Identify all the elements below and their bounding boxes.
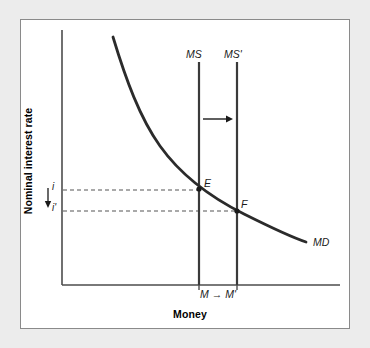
y-tick-label-i: i — [52, 181, 54, 192]
y-tick-label-i-prime: i' — [52, 202, 56, 213]
md-curve-label: MD — [313, 236, 329, 248]
figure-root: Nominal interest rate Money MS MS' MD E … — [0, 0, 370, 348]
point-f-label: F — [241, 198, 247, 210]
x-axis-title: Money — [150, 308, 230, 320]
ms-curve-label: MS — [186, 48, 202, 60]
ms-prime-curve-label: MS' — [224, 48, 242, 60]
point-e-label: E — [204, 177, 211, 189]
x-tick-labels-m-to-m-prime: M → M' — [180, 288, 256, 300]
figure-frame — [20, 19, 350, 329]
y-axis-title: Nominal interest rate — [22, 86, 34, 236]
